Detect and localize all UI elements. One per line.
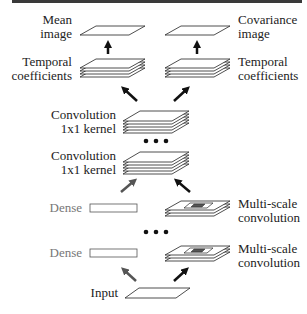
dense2-label: Dense — [0, 246, 82, 260]
dense1-block — [90, 204, 137, 212]
multiscale1-label-line2: convolution — [238, 211, 300, 225]
ellipsis-dots-icon-2 — [144, 230, 169, 235]
multiscale2-stack — [165, 246, 230, 261]
temporal-right-label-line1: Temporal — [238, 55, 298, 69]
conv2-label: Convolution 1x1 kernel — [0, 149, 116, 177]
arrow-input-to-dense-icon — [124, 270, 136, 281]
input-plane — [125, 288, 190, 298]
temporal-right-stack — [165, 59, 230, 77]
conv1-label-line1: Convolution — [0, 108, 116, 122]
temporal-right-label-line2: coefficients — [238, 69, 298, 83]
temporal-left-stack — [80, 59, 145, 77]
conv2-stack — [123, 152, 189, 174]
multiscale2-label: Multi-scale convolution — [238, 242, 300, 270]
multiscale1-label-line1: Multi-scale — [238, 197, 300, 211]
multiscale2-label-line1: Multi-scale — [238, 242, 300, 256]
arrow-dense-to-conv-icon — [121, 181, 134, 192]
multiscale1-label: Multi-scale convolution — [238, 197, 300, 225]
arrow-input-to-multiscale-icon — [174, 270, 186, 281]
mean-image-plane — [80, 26, 145, 35]
dense2-block — [90, 249, 137, 257]
arrow-multiscale-to-conv-icon — [177, 181, 190, 192]
arrow-diag-right-icon — [174, 89, 187, 101]
temporal-left-label-line1: Temporal — [0, 55, 72, 69]
covariance-image-plane — [165, 26, 230, 35]
conv2-label-line2: 1x1 kernel — [0, 163, 116, 177]
conv1-label-line2: 1x1 kernel — [0, 122, 116, 136]
covariance-image-label-line1: Covariance — [238, 13, 297, 27]
conv2-label-line1: Convolution — [0, 149, 116, 163]
temporal-left-label: Temporal coefficients — [0, 55, 72, 83]
conv1-label: Convolution 1x1 kernel — [0, 108, 116, 136]
dense1-label: Dense — [0, 201, 82, 215]
input-label: Input — [0, 286, 118, 300]
multiscale2-label-line2: convolution — [238, 256, 300, 270]
arrow-diag-left-icon — [124, 89, 137, 101]
conv1-stack — [123, 111, 189, 133]
multiscale1-stack — [165, 201, 230, 216]
temporal-right-label: Temporal coefficients — [238, 55, 298, 83]
ellipsis-dots-icon — [144, 139, 169, 144]
temporal-left-label-line2: coefficients — [0, 69, 72, 83]
mean-image-label-line2: image — [0, 27, 72, 41]
covariance-image-label: Covariance image — [238, 13, 297, 41]
mean-image-label: Mean image — [0, 13, 72, 41]
covariance-image-label-line2: image — [238, 27, 297, 41]
mean-image-label-line1: Mean — [0, 13, 72, 27]
